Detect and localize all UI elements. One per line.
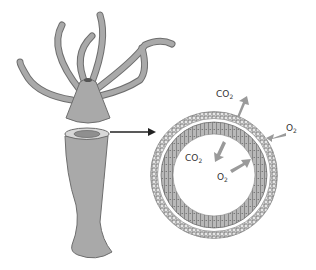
co2-inner-arrow [214, 141, 226, 162]
co2-out-arrow [237, 96, 249, 118]
pointer-arrow [110, 128, 156, 136]
cross-section [151, 112, 278, 239]
label-o2-inner: O2 [217, 173, 228, 183]
label-co2-inner: CO2 [185, 154, 202, 164]
label-o2-outer: O2 [286, 124, 297, 134]
hydra-diagram: CO2 O2 CO2 O2 [0, 0, 316, 270]
o2-inner-arrow [230, 159, 251, 173]
hydra-body [65, 136, 112, 258]
diagram-graphic [0, 0, 316, 270]
o2-in-arrow [266, 133, 286, 142]
label-co2-outer: CO2 [216, 90, 233, 100]
